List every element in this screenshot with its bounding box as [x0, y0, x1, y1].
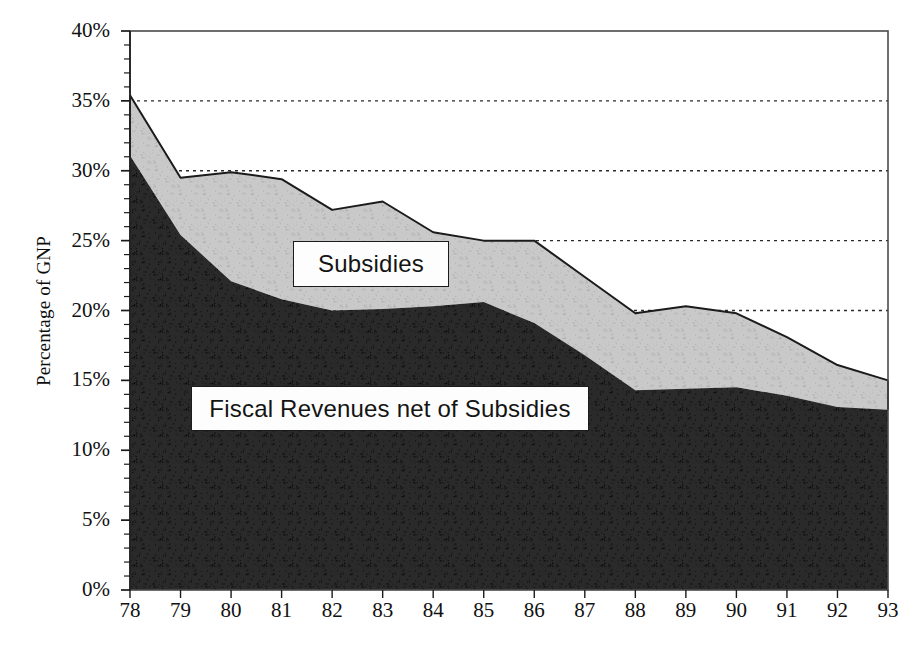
- legend-label-fiscal-revenues: Fiscal Revenues net of Subsidies: [191, 386, 589, 431]
- legend-subsidies-text: Subsidies: [318, 250, 424, 278]
- legend-label-subsidies: Subsidies: [293, 241, 449, 287]
- stacked-area-plot: [0, 0, 914, 645]
- chart-canvas: Percentage of GNP 0%5%10%15%20%25%30%35%…: [0, 0, 914, 645]
- legend-revenues-text: Fiscal Revenues net of Subsidies: [209, 395, 570, 423]
